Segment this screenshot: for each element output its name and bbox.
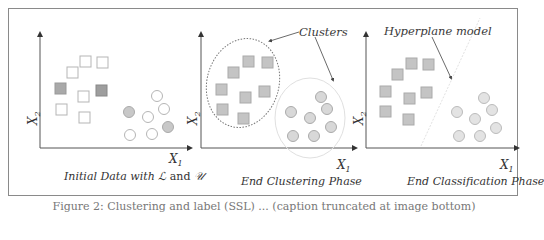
panel-initial-data [40, 34, 190, 148]
clusters-annotation: Clusters [299, 25, 348, 39]
square-points [55, 56, 108, 123]
panel-title-clustering: End Clustering Phase [241, 175, 362, 188]
circle-points [286, 92, 337, 142]
y-axis-label-clustering: X2 [186, 111, 202, 125]
x-axis-label-classification: X1 [500, 158, 514, 174]
panel-title-classification: End Classification Phase [407, 175, 544, 188]
figure-caption: Figure 2: Clustering and label (SSL) ...… [0, 200, 528, 213]
hyperplane-annotation: Hyperplane model [384, 24, 492, 38]
square-points [216, 56, 273, 124]
circle-points [124, 91, 174, 141]
circle-points [452, 93, 502, 142]
panel-title-initial: Initial Data with ℒ and 𝒰 [64, 170, 204, 183]
x-axis-label-clustering: X1 [337, 158, 351, 174]
hyperplane-annotation-arrow [432, 37, 451, 78]
y-axis-label-initial: X2 [26, 111, 42, 125]
y-axis-label-classification: X2 [352, 111, 368, 125]
square-points [380, 58, 434, 125]
panel-clustering [197, 30, 355, 158]
x-axis-label-initial: X1 [169, 152, 183, 168]
